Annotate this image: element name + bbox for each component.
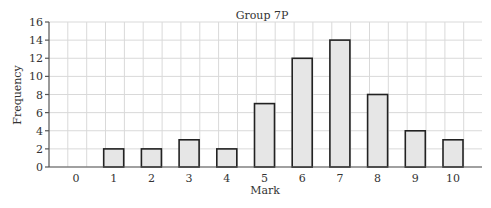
bar-1 <box>104 149 124 167</box>
x-axis-title: Mark <box>250 184 280 197</box>
chart-title: Group 7P <box>236 9 289 22</box>
x-tick-label: 7 <box>336 172 343 185</box>
x-tick-label: 8 <box>374 172 381 185</box>
y-tick-label: 0 <box>36 161 43 174</box>
bar-10 <box>443 140 463 167</box>
bar-chart: 0246810121416 012345678910 Group 7P Mark… <box>0 0 491 208</box>
y-tick-label: 14 <box>29 34 43 47</box>
y-tick-label: 4 <box>36 125 43 138</box>
y-tick-label: 16 <box>29 16 43 29</box>
bar-7 <box>330 40 350 167</box>
x-tick-label: 9 <box>412 172 419 185</box>
bar-2 <box>141 149 161 167</box>
x-tick-label: 6 <box>299 172 306 185</box>
bar-3 <box>179 140 199 167</box>
x-tick-label: 0 <box>73 172 80 185</box>
y-ticks: 0246810121416 <box>29 16 49 174</box>
bar-6 <box>292 58 312 167</box>
bar-9 <box>405 131 425 167</box>
x-tick-label: 1 <box>110 172 117 185</box>
y-tick-label: 12 <box>29 52 43 65</box>
y-tick-label: 10 <box>29 70 43 83</box>
y-axis-title: Frequency <box>11 64 24 124</box>
y-tick-label: 8 <box>36 89 43 102</box>
x-tick-label: 4 <box>223 172 230 185</box>
x-tick-label: 3 <box>186 172 193 185</box>
bar-5 <box>255 104 275 167</box>
bar-8 <box>368 95 388 168</box>
bar-4 <box>217 149 237 167</box>
y-tick-label: 2 <box>36 143 43 156</box>
bars <box>104 40 463 167</box>
x-tick-label: 10 <box>446 172 460 185</box>
y-tick-label: 6 <box>36 107 43 120</box>
x-tick-label: 2 <box>148 172 155 185</box>
